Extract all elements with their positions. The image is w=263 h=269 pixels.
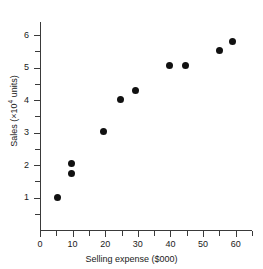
y-axis-title-prefix: Sales (×10 <box>9 103 19 146</box>
x-axis-title: Selling expense ($000) <box>0 254 263 264</box>
x-axis-tick-label: 20 <box>93 240 117 249</box>
x-axis-tick-label: 10 <box>61 240 85 249</box>
x-axis-tick-label: 40 <box>158 240 182 249</box>
data-point <box>132 87 139 94</box>
scatter-plot-figure: 123456 0102030405060 Selling expense ($0… <box>0 0 263 269</box>
x-axis-tick <box>170 231 171 237</box>
x-axis-tick <box>40 231 41 237</box>
data-point <box>182 62 189 69</box>
x-axis-minor-tick <box>89 231 90 236</box>
x-axis-minor-tick <box>122 231 123 236</box>
x-axis-tick <box>105 231 106 237</box>
y-axis-title-exponent: 4 <box>7 100 14 104</box>
x-axis-minor-tick <box>252 231 253 236</box>
x-axis-tick <box>73 231 74 237</box>
y-axis-title-suffix: units) <box>9 75 19 100</box>
x-axis-tick-label: 0 <box>28 240 52 249</box>
x-axis-tick <box>138 231 139 237</box>
data-point <box>216 47 223 54</box>
x-axis-tick-label: 50 <box>191 240 215 249</box>
x-axis-tick <box>203 231 204 237</box>
x-axis-minor-tick <box>56 231 57 236</box>
y-axis-tick-label: 6 <box>9 31 29 40</box>
y-axis-tick-label: 1 <box>9 193 29 202</box>
x-axis-tick-label: 60 <box>224 240 248 249</box>
y-axis-title: Sales (×104 units) <box>7 46 19 176</box>
x-axis-minor-tick <box>219 231 220 236</box>
x-axis-minor-tick <box>154 231 155 236</box>
x-axis-minor-tick <box>187 231 188 236</box>
data-point <box>229 38 236 45</box>
x-axis-tick-label: 30 <box>126 240 150 249</box>
x-axis-tick <box>236 231 237 237</box>
